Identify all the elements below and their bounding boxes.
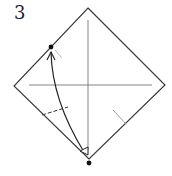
source-point-dot xyxy=(87,161,92,166)
origami-diagram xyxy=(0,0,172,176)
paper-square xyxy=(14,8,165,159)
target-point-dot xyxy=(49,45,54,50)
